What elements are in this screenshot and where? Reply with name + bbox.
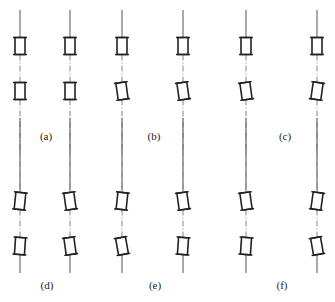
wheel-lower-icon (13, 83, 27, 100)
wheel-upper-icon (239, 38, 253, 55)
wheel-alignment-diagram (0, 0, 335, 302)
wheel-upper-icon (238, 192, 254, 211)
wheel-upper-icon (62, 192, 78, 211)
panel-label-f: (f) (277, 279, 288, 291)
panel-label-b: (b) (148, 130, 161, 142)
wheel-lower-icon (309, 82, 325, 101)
wheel-lower-icon (114, 236, 131, 255)
panel-label-c: (c) (279, 130, 291, 142)
wheel-upper-icon (13, 38, 27, 55)
wheel-upper-icon (115, 38, 129, 55)
wheel-lower-icon (175, 237, 190, 255)
wheel-lower-icon (63, 83, 77, 100)
wheel-lower-icon (238, 237, 253, 255)
wheel-upper-icon (12, 192, 28, 210)
wheel-lower-icon (309, 236, 326, 255)
wheel-lower-icon (175, 82, 191, 101)
wheel-upper-icon (310, 38, 324, 55)
wheel-upper-icon (309, 192, 325, 211)
wheel-upper-icon (114, 192, 130, 210)
wheel-upper-icon (176, 38, 190, 55)
wheel-lower-icon (62, 237, 78, 256)
panel-label-d: (d) (41, 279, 54, 291)
wheel-upper-icon (63, 38, 77, 55)
panel-label-e: (e) (149, 279, 161, 291)
wheel-lower-icon (114, 82, 130, 101)
wheel-lower-icon (12, 237, 27, 255)
wheel-upper-icon (175, 192, 191, 211)
panel-label-a: (a) (40, 130, 52, 142)
wheel-lower-icon (238, 82, 254, 101)
